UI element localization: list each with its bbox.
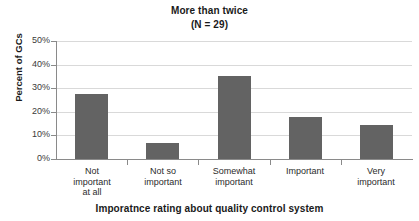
y-axis-line	[56, 41, 57, 160]
x-category-label-line: important	[127, 177, 199, 188]
y-tick-mark	[51, 88, 56, 89]
x-category-label-line: Somewhat	[198, 166, 270, 177]
x-category-label-line: important	[340, 177, 412, 188]
x-tick-mark	[198, 160, 199, 165]
x-tick-mark	[127, 160, 128, 165]
x-category-label: Not soimportant	[127, 166, 199, 187]
y-tick-label: 40%	[4, 59, 50, 69]
gridline	[56, 41, 412, 42]
x-category-label: Veryimportant	[340, 166, 412, 187]
gridline	[56, 65, 412, 66]
y-tick-label: 30%	[4, 82, 50, 92]
plot-area	[56, 41, 412, 159]
x-category-label-line: Not so	[127, 166, 199, 177]
x-category-label-line: important	[198, 177, 270, 188]
bar	[75, 94, 108, 159]
x-axis-title: Imporatnce rating about quality control …	[0, 203, 419, 214]
x-category-label: Somewhatimportant	[198, 166, 270, 187]
x-tick-mark	[270, 160, 271, 165]
y-tick-label: 20%	[4, 106, 50, 116]
x-category-label-line: important	[56, 177, 128, 188]
x-tick-mark	[341, 160, 342, 165]
y-tick-mark	[51, 41, 56, 42]
bar	[146, 143, 179, 160]
y-tick-mark	[51, 159, 56, 160]
y-tick-label: 0%	[4, 153, 50, 163]
x-category-label-line: Not	[56, 166, 128, 177]
bar	[360, 125, 393, 159]
y-tick-mark	[51, 135, 56, 136]
chart-title: More than twice	[0, 5, 419, 16]
x-category-label-line: Important	[269, 166, 341, 177]
bar	[289, 117, 322, 160]
y-tick-mark	[51, 112, 56, 113]
chart-subtitle: (N = 29)	[0, 19, 419, 30]
y-tick-mark	[51, 65, 56, 66]
bar-chart-figure: More than twice (N = 29) Percent of GCs …	[0, 0, 419, 221]
x-axis-line	[56, 159, 413, 160]
y-tick-label: 10%	[4, 129, 50, 139]
x-category-label: Notimportantat all	[56, 166, 128, 198]
y-tick-label: 50%	[4, 35, 50, 45]
x-category-label-line: at all	[56, 187, 128, 198]
x-category-label-line: Very	[340, 166, 412, 177]
x-category-label: Important	[269, 166, 341, 177]
bar	[218, 76, 251, 159]
